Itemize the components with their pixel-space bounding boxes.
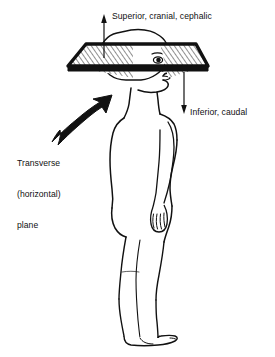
label-superior: Superior, cranial, cephalic: [112, 11, 212, 21]
arrow-up-right-icon: [52, 95, 112, 145]
label-transverse-plane: Transverse (horizontal) plane: [17, 137, 61, 251]
label-transverse-line-2: (horizontal): [17, 189, 61, 199]
label-transverse-line-1: Transverse: [17, 158, 61, 168]
human-body-profile-icon: [100, 30, 177, 346]
anatomical-plane-diagram: Superior, cranial, cephalic Inferior, ca…: [0, 0, 275, 357]
label-inferior: Inferior, caudal: [190, 107, 247, 117]
label-transverse-line-3: plane: [17, 220, 61, 230]
arrow-down-icon: [181, 72, 187, 114]
